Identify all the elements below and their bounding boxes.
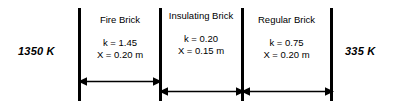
layer-fire-brick: Fire Brick k = 1.45 X = 0.20 m: [82, 14, 158, 61]
right-temperature-label: 335 K: [345, 45, 375, 57]
spacer: [162, 24, 240, 33]
spacer: [82, 28, 158, 37]
dimension-arrow-insulating-brick: [159, 86, 245, 97]
layer-insulating-brick-name: Insulating Brick: [162, 10, 240, 22]
layer-regular-brick-name: Regular Brick: [244, 14, 329, 26]
wall-boundary-line-0: [78, 8, 81, 101]
layer-fire-brick-name: Fire Brick: [82, 14, 158, 26]
composite-wall-diagram: 1350 K 335 K Fire Brick k = 1.45 X = 0.2…: [0, 0, 402, 110]
layer-fire-brick-thickness: X = 0.20 m: [82, 49, 158, 61]
layer-regular-brick: Regular Brick k = 0.75 X = 0.20 m: [244, 14, 329, 61]
dimension-arrow-fire-brick: [78, 76, 162, 87]
layer-fire-brick-conductivity: k = 1.45: [82, 37, 158, 49]
left-temperature-label: 1350 K: [18, 45, 55, 57]
dimension-arrow-regular-brick: [241, 86, 334, 97]
layer-insulating-brick-conductivity: k = 0.20: [162, 33, 240, 45]
layer-insulating-brick: Insulating Brick k = 0.20 X = 0.15 m: [162, 10, 240, 57]
layer-regular-brick-thickness: X = 0.20 m: [244, 49, 329, 61]
layer-regular-brick-conductivity: k = 0.75: [244, 37, 329, 49]
layer-insulating-brick-thickness: X = 0.15 m: [162, 45, 240, 57]
spacer: [244, 28, 329, 37]
